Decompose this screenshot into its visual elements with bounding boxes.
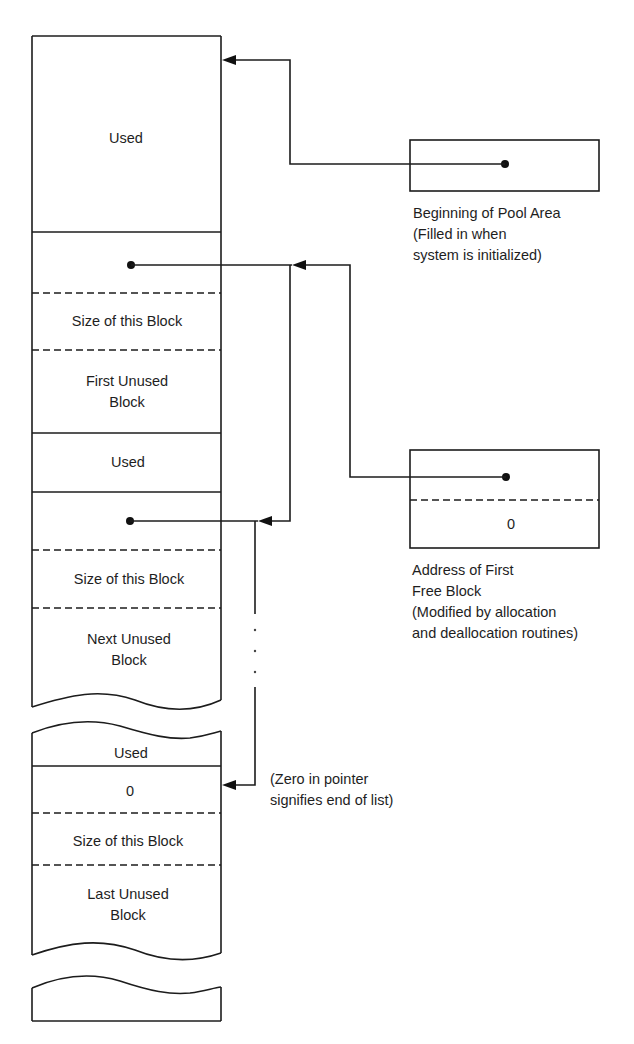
block-first-unused: Size of this Block First Unused Block — [32, 261, 221, 433]
block-next-unused: Size of this Block Next Unused Block — [32, 517, 221, 668]
free-head-caption-3: (Modified by allocation — [412, 604, 556, 620]
pool-caption-3: system is initialized) — [413, 247, 542, 263]
memory-pool-diagram: Used Size of this Block First Unused Blo… — [0, 0, 634, 1044]
arrowhead-icon — [292, 260, 306, 270]
free-head-caption-1: Address of First — [412, 562, 514, 578]
break-wave-lower-bottom — [32, 943, 221, 960]
block-body-label-1: Last Unused — [87, 886, 168, 902]
block-body-label-2: Block — [109, 394, 145, 410]
block-body-label-1: Next Unused — [87, 631, 171, 647]
block-used-middle: Used — [32, 454, 221, 492]
pool-pointer-box: Beginning of Pool Area (Filled in when s… — [410, 140, 599, 263]
memory-column-stub — [32, 976, 221, 1021]
arrow-next-to-last-free: (Zero in pointer signifies end of list) — [222, 521, 393, 808]
end-pointer-zero: 0 — [126, 783, 134, 799]
break-wave-lower-top — [32, 722, 221, 739]
free-list-head-box: 0 Address of First Free Block (Modified … — [410, 450, 599, 641]
block-used-middle-label: Used — [111, 454, 145, 470]
end-note-1: (Zero in pointer — [270, 771, 368, 787]
block-used-top: Used — [32, 130, 221, 232]
block-body-label-2: Block — [111, 652, 147, 668]
pool-caption-1: Beginning of Pool Area — [413, 205, 561, 221]
free-head-zero: 0 — [507, 516, 515, 532]
size-field-label: Size of this Block — [74, 571, 185, 587]
size-field-label: Size of this Block — [72, 313, 183, 329]
ellipsis-dot — [254, 671, 256, 673]
break-wave-upper — [32, 694, 221, 709]
arrowhead-icon — [222, 55, 236, 65]
end-note-2: signifies end of list) — [270, 792, 393, 808]
pool-caption-2: (Filled in when — [413, 226, 507, 242]
block-body-label-1: First Unused — [86, 373, 168, 389]
block-used-lower-label: Used — [114, 745, 148, 761]
arrow-first-to-next-free — [130, 265, 290, 526]
arrowhead-icon — [258, 516, 272, 526]
arrowhead-icon — [222, 780, 236, 790]
free-head-caption-2: Free Block — [412, 583, 482, 599]
size-field-label: Size of this Block — [73, 833, 184, 849]
ellipsis-dot — [254, 650, 256, 652]
ellipsis-dot — [254, 629, 256, 631]
memory-column-lower: Used 0 Size of this Block Last Unused Bl… — [32, 722, 221, 960]
free-head-caption-4: and deallocation routines) — [412, 625, 578, 641]
block-used-top-label: Used — [109, 130, 143, 146]
block-body-label-2: Block — [110, 907, 146, 923]
